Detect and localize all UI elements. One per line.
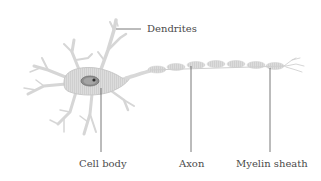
cell-body-label: Cell body xyxy=(79,158,127,170)
myelin-sheath-label: Myelin sheath xyxy=(236,158,308,170)
axon-hillock xyxy=(126,71,150,78)
leader-lines xyxy=(101,29,270,152)
axon-terminals xyxy=(284,58,304,72)
dendrites-label: Dendrites xyxy=(147,23,197,35)
axon-label: Axon xyxy=(179,158,204,170)
nucleolus xyxy=(92,78,95,81)
